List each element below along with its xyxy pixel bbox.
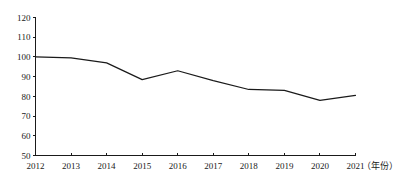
- x-axis-tick-label: 2020: [311, 161, 330, 171]
- x-axis-tick-label: 2016: [169, 161, 188, 171]
- x-axis-tick-label: 2019: [275, 161, 294, 171]
- y-axis-tick-label: 100: [17, 52, 31, 62]
- x-axis-tick-label: 2018: [240, 161, 259, 171]
- x-axis-tick-label: 2014: [98, 161, 117, 171]
- x-axis-label: （年份）: [362, 160, 398, 171]
- y-axis-tick-label: 110: [17, 32, 31, 42]
- x-axis-tick-label: 2012: [27, 161, 45, 171]
- x-axis-tick-label: 2017: [204, 161, 223, 171]
- chart-canvas: 5060708090100110120 20122013201420152016…: [0, 0, 398, 187]
- y-axis-tick-label: 90: [22, 72, 32, 82]
- y-axis-tick-label-group: 5060708090100110120: [17, 13, 31, 161]
- x-axis-tick-label-group: 2012201320142015201620172018201920202021: [27, 161, 365, 171]
- y-axis-tick-label: 60: [22, 131, 32, 141]
- line-chart-figure: 5060708090100110120 20122013201420152016…: [0, 0, 398, 187]
- data-series-line: [36, 57, 356, 100]
- y-axis-tick-label: 80: [22, 92, 32, 102]
- y-axis-tick-label: 50: [22, 151, 32, 161]
- x-axis-tick-label: 2013: [62, 161, 81, 171]
- y-axis-tick-label: 120: [17, 13, 31, 23]
- x-axis-tick-label: 2015: [133, 161, 152, 171]
- y-axis-tick-label: 70: [22, 111, 32, 121]
